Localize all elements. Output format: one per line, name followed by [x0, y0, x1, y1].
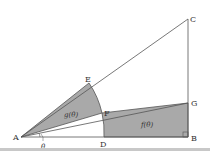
angle-arc [39, 133, 40, 137]
geometry-diagram: A B C D E F G g(θ) f(θ) θ [0, 0, 210, 161]
label-A: A [12, 133, 19, 142]
label-E: E [85, 75, 91, 84]
label-B: B [191, 134, 197, 143]
label-g-theta: g(θ) [64, 111, 78, 119]
label-C: C [190, 15, 196, 24]
label-f-theta: f(θ) [140, 121, 154, 129]
region-f [102, 103, 188, 137]
angle-pointer [41, 134, 43, 141]
label-F: F [104, 109, 110, 118]
bottom-divider [0, 148, 210, 151]
label-G: G [191, 99, 197, 108]
